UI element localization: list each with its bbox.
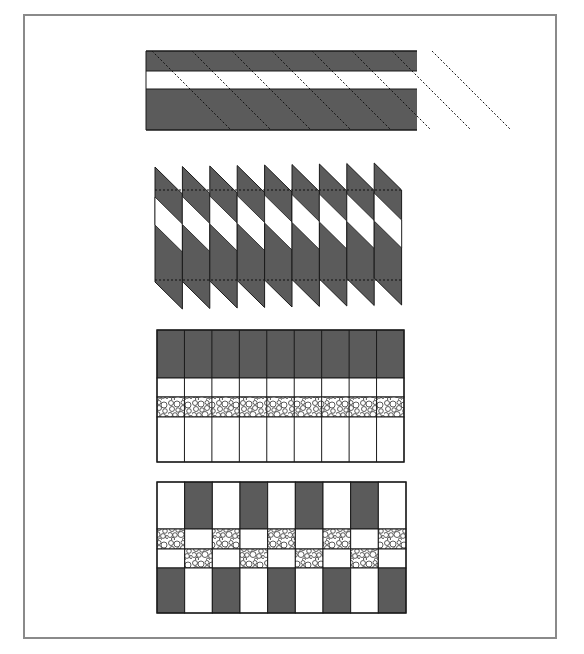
- cell-dark: [212, 568, 240, 613]
- panel-checkerboard: [157, 482, 406, 613]
- cell-light: [157, 549, 185, 568]
- cell-dark: [157, 568, 185, 613]
- cell-dark: [268, 568, 296, 613]
- cell-dark: [240, 482, 268, 529]
- cell-light: [212, 482, 240, 529]
- cell-dark: [323, 568, 351, 613]
- panel-column-strip: [157, 330, 404, 462]
- cell-pebble: [212, 529, 240, 549]
- cell-light: [185, 568, 213, 613]
- row-light: [157, 417, 404, 462]
- cell-pebble: [351, 549, 379, 568]
- cell-dark: [351, 482, 379, 529]
- cell-light: [323, 549, 351, 568]
- cell-light: [212, 549, 240, 568]
- cell-light: [378, 549, 406, 568]
- row-dark: [157, 330, 404, 378]
- cell-light: [378, 482, 406, 529]
- quilt-diagram: [0, 0, 584, 654]
- panel-strip-set: [146, 51, 511, 130]
- cell-light: [268, 549, 296, 568]
- cell-dark: [378, 568, 406, 613]
- cell-light: [295, 568, 323, 613]
- cell-light: [240, 568, 268, 613]
- cut-line: [432, 51, 511, 130]
- cell-light: [351, 568, 379, 613]
- band-dark: [146, 89, 417, 130]
- row-light: [157, 378, 404, 397]
- cell-light: [240, 529, 268, 549]
- cell-dark: [185, 482, 213, 529]
- cell-light: [351, 529, 379, 549]
- cell-light: [157, 482, 185, 529]
- cell-pebble: [378, 529, 406, 549]
- cell-pebble: [295, 549, 323, 568]
- cell-pebble: [157, 529, 185, 549]
- cell-light: [295, 529, 323, 549]
- cell-pebble: [323, 529, 351, 549]
- cell-pebble: [185, 549, 213, 568]
- row-pebble: [157, 397, 404, 417]
- cell-light: [268, 482, 296, 529]
- cell-light: [185, 529, 213, 549]
- cell-pebble: [268, 529, 296, 549]
- panel-cut-segments: [155, 163, 402, 309]
- cell-pebble: [240, 549, 268, 568]
- cell-dark: [295, 482, 323, 529]
- cell-light: [323, 482, 351, 529]
